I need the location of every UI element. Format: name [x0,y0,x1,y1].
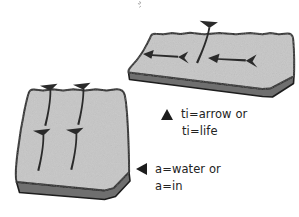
legend-entry-a-line1: a=water or [155,162,221,176]
lower-tablet-face [16,89,129,190]
legend-entry-ti-line1: ti=arrow or [181,107,247,121]
triangle-up-icon [161,109,173,120]
triangle-left-icon [136,163,147,175]
lower-left-tablet [16,83,130,200]
legend-entry-ti-line2: ti=life [181,124,218,138]
legend-entry-a: a=water or a=in [136,161,221,195]
legend-entry-a-text: a=water or a=in [155,161,221,195]
legend-entry-ti: ti=arrow or ti=life [161,106,247,140]
legend-entry-ti-text: ti=arrow or ti=life [181,106,247,140]
legend-entry-a-line2: a=in [155,179,183,193]
